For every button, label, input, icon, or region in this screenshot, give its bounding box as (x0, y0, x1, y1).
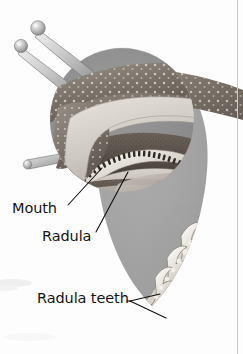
label-radula: Radula (42, 229, 91, 244)
eye-bulb-upper-highlight (33, 23, 37, 27)
eye-bulb-lower (14, 39, 27, 52)
sensory-tentacle-tip (23, 160, 31, 169)
eye-bulb-lower-highlight (17, 42, 21, 46)
eye-bulb-upper (31, 21, 46, 36)
label-radula-teeth: Radula teeth (37, 291, 129, 306)
snail-radula-figure: Mouth Radula Radula teeth (0, 0, 243, 354)
page-right-rule (237, 0, 238, 354)
label-mouth: Mouth (12, 201, 57, 216)
